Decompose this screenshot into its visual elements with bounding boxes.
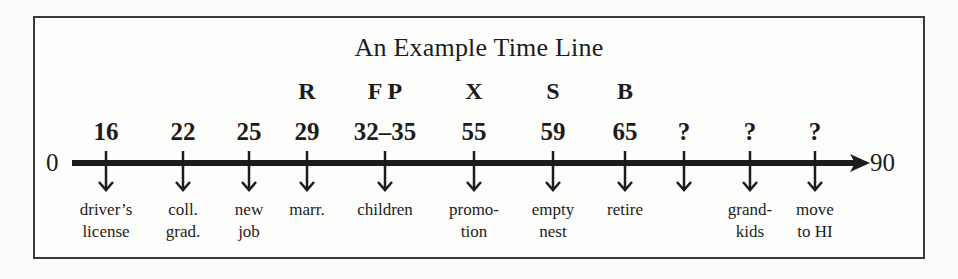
event-label-line-1: promo-	[449, 199, 499, 221]
event-label: marr.	[289, 199, 324, 221]
event-label: promo-tion	[449, 199, 499, 243]
event-code: B	[617, 78, 633, 105]
axis-end-label: 90	[870, 149, 895, 177]
axis-start-label: 0	[46, 149, 59, 177]
event-age: 29	[295, 118, 320, 146]
event-label-line-1: driver’s	[80, 199, 133, 221]
event-label-line-2: license	[80, 221, 133, 243]
event-code: X	[465, 78, 482, 105]
event-age: 32–35	[354, 118, 417, 146]
event-label-line-1: empty	[532, 199, 575, 221]
event-label-line-1: children	[357, 199, 413, 221]
event-label-line-2: nest	[532, 221, 575, 243]
event-age: 22	[171, 118, 196, 146]
event-label: driver’slicense	[80, 199, 133, 243]
event-label-line-1: grand-	[728, 199, 772, 221]
event-label-line-1: retire	[607, 199, 643, 221]
tick-arrows	[99, 151, 822, 190]
event-age: 55	[462, 118, 487, 146]
event-label-line-1: new	[235, 199, 263, 221]
event-age: 16	[94, 118, 119, 146]
event-label-line-2: to HI	[796, 221, 834, 243]
event-age: ?	[809, 118, 822, 146]
event-age: 65	[613, 118, 638, 146]
event-label-line-2: kids	[728, 221, 772, 243]
event-label-line-2: grad.	[166, 221, 200, 243]
event-age: ?	[744, 118, 757, 146]
event-label: retire	[607, 199, 643, 221]
event-label: emptynest	[532, 199, 575, 243]
event-age: 59	[541, 118, 566, 146]
event-label-line-1: coll.	[166, 199, 200, 221]
event-age: ?	[678, 118, 691, 146]
event-label: children	[357, 199, 413, 221]
event-label: grand-kids	[728, 199, 772, 243]
event-label: coll.grad.	[166, 199, 200, 243]
event-label-line-1: marr.	[289, 199, 324, 221]
event-code: S	[546, 78, 559, 105]
event-label: newjob	[235, 199, 263, 243]
event-label-line-2: tion	[449, 221, 499, 243]
event-label-line-2: job	[235, 221, 263, 243]
event-code: R	[298, 78, 315, 105]
event-age: 25	[237, 118, 262, 146]
event-label-line-1: move	[796, 199, 834, 221]
event-label: moveto HI	[796, 199, 834, 243]
event-code: F P	[368, 78, 402, 105]
